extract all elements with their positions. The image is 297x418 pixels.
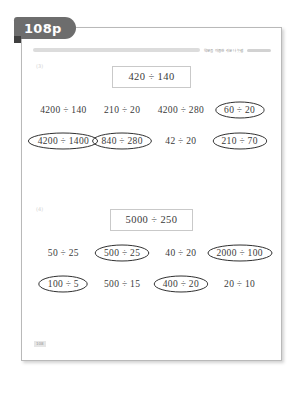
choice-option[interactable]: 4200 ÷ 280 <box>152 101 211 119</box>
choice-option[interactable]: 500 ÷ 25 <box>93 244 152 262</box>
choice-option[interactable]: 50 ÷ 25 <box>34 244 93 262</box>
choice-expression: 500 ÷ 15 <box>104 279 140 289</box>
choice-expression: 4200 ÷ 140 <box>40 105 86 115</box>
header-dash-icon <box>247 49 271 52</box>
problem-marker: (4) <box>36 206 43 212</box>
choice-option[interactable]: 20 ÷ 10 <box>210 275 269 293</box>
choice-option[interactable]: 42 ÷ 20 <box>152 132 211 150</box>
choice-expression: 20 ÷ 10 <box>224 279 255 289</box>
choice-expression: 2000 ÷ 100 <box>217 248 263 258</box>
choice-row: 4200 ÷ 1400840 ÷ 28042 ÷ 20210 ÷ 70 <box>22 132 281 150</box>
choice-option[interactable]: 400 ÷ 20 <box>152 275 211 293</box>
choice-expression: 100 ÷ 5 <box>48 279 79 289</box>
choice-expression: 40 ÷ 20 <box>165 248 196 258</box>
choice-expression: 210 ÷ 20 <box>104 105 140 115</box>
choice-option[interactable]: 4200 ÷ 140 <box>34 101 93 119</box>
page-number-label: 108p <box>24 21 62 36</box>
header-caption: 약분을 이용한 쉬운 나눗셈 <box>204 48 243 53</box>
choice-option[interactable]: 40 ÷ 20 <box>152 244 211 262</box>
choice-row: 100 ÷ 5500 ÷ 15400 ÷ 2020 ÷ 10 <box>22 275 281 293</box>
choice-expression: 840 ÷ 280 <box>102 136 143 146</box>
choice-expression: 210 ÷ 70 <box>222 136 258 146</box>
worksheet-page: 약분을 이용한 쉬운 나눗셈 (3)420 ÷ 1404200 ÷ 140210… <box>21 27 282 361</box>
prompt-row: 420 ÷ 140 <box>22 61 281 88</box>
choice-expression: 60 ÷ 20 <box>224 105 255 115</box>
problem-block: (4)5000 ÷ 25050 ÷ 25500 ÷ 2540 ÷ 202000 … <box>22 204 281 293</box>
choice-option[interactable]: 210 ÷ 70 <box>210 132 269 150</box>
header-rule: 약분을 이용한 쉬운 나눗셈 <box>33 45 271 55</box>
choice-expression: 4200 ÷ 280 <box>158 105 204 115</box>
problem-marker: (3) <box>36 63 43 69</box>
choice-option[interactable]: 2000 ÷ 100 <box>210 244 269 262</box>
choice-option[interactable]: 100 ÷ 5 <box>34 275 93 293</box>
header-bar-icon <box>33 48 200 52</box>
choice-option[interactable]: 60 ÷ 20 <box>210 101 269 119</box>
page-tab-corner-icon <box>14 36 21 43</box>
choice-option[interactable]: 210 ÷ 20 <box>93 101 152 119</box>
choice-expression: 50 ÷ 25 <box>48 248 79 258</box>
problem-block: (3)420 ÷ 1404200 ÷ 140210 ÷ 204200 ÷ 280… <box>22 61 281 150</box>
choice-expression: 42 ÷ 20 <box>165 136 196 146</box>
page-number-tab[interactable]: 108p <box>14 17 76 39</box>
footer-page-mark: 108 <box>34 341 46 347</box>
choice-expression: 400 ÷ 20 <box>163 279 199 289</box>
prompt-row: 5000 ÷ 250 <box>22 204 281 231</box>
choice-expression: 500 ÷ 25 <box>104 248 140 258</box>
prompt-expression-box: 5000 ÷ 250 <box>110 209 194 231</box>
choice-option[interactable]: 840 ÷ 280 <box>93 132 152 150</box>
choice-option[interactable]: 4200 ÷ 1400 <box>34 132 93 150</box>
choice-expression: 4200 ÷ 1400 <box>38 136 89 146</box>
choice-row: 50 ÷ 25500 ÷ 2540 ÷ 202000 ÷ 100 <box>22 244 281 262</box>
prompt-expression-box: 420 ÷ 140 <box>112 66 190 88</box>
choice-option[interactable]: 500 ÷ 15 <box>93 275 152 293</box>
choice-row: 4200 ÷ 140210 ÷ 204200 ÷ 28060 ÷ 20 <box>22 101 281 119</box>
